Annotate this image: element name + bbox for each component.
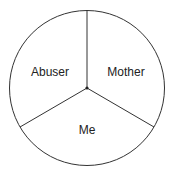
- segment-label-abuser: Abuser: [31, 65, 69, 79]
- segment-label-me: Me: [79, 123, 96, 137]
- center-dot: [85, 86, 88, 89]
- pie-diagram: Abuser Mother Me: [0, 0, 169, 175]
- segment-label-mother: Mother: [107, 65, 144, 79]
